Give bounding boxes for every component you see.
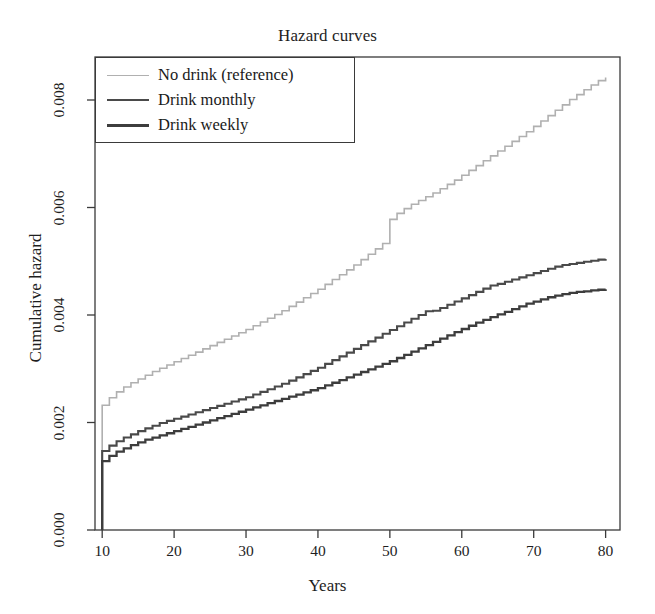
legend-swatch-no-drink xyxy=(107,75,149,76)
x-tick-label-6: 70 xyxy=(514,542,554,560)
legend-swatch-drink-monthly xyxy=(107,99,149,101)
y-tick-label-3: 0.006 xyxy=(50,180,68,236)
series-line-2 xyxy=(102,289,605,530)
legend-label-drink-weekly: Drink weekly xyxy=(158,117,248,134)
x-tick-label-2: 30 xyxy=(226,542,266,560)
legend-item-drink-monthly: Drink monthly xyxy=(107,87,256,113)
legend-label-drink-monthly: Drink monthly xyxy=(158,92,256,109)
legend-item-no-drink: No drink (reference) xyxy=(107,62,294,88)
y-tick-label-0: 0.000 xyxy=(50,502,68,558)
x-axis-label: Years xyxy=(0,576,655,596)
x-tick-label-7: 80 xyxy=(586,542,626,560)
hazard-curves-figure: Hazard curves Cumulative hazard Years 0.… xyxy=(0,0,655,614)
y-axis-label: Cumulative hazard xyxy=(26,198,46,398)
series-line-1 xyxy=(102,259,605,530)
x-tick-label-3: 40 xyxy=(298,542,338,560)
x-tick-label-0: 10 xyxy=(82,542,122,560)
y-tick-label-4: 0.008 xyxy=(50,72,68,128)
y-tick-label-1: 0.002 xyxy=(50,395,68,451)
chart-title: Hazard curves xyxy=(0,26,655,46)
legend: No drink (reference) Drink monthly Drink… xyxy=(95,57,355,143)
x-tick-label-4: 50 xyxy=(370,542,410,560)
legend-item-drink-weekly: Drink weekly xyxy=(107,112,248,138)
legend-swatch-drink-weekly xyxy=(107,124,149,127)
legend-label-no-drink: No drink (reference) xyxy=(158,67,294,84)
x-tick-label-1: 20 xyxy=(154,542,194,560)
x-tick-label-5: 60 xyxy=(442,542,482,560)
y-tick-label-2: 0.004 xyxy=(50,287,68,343)
